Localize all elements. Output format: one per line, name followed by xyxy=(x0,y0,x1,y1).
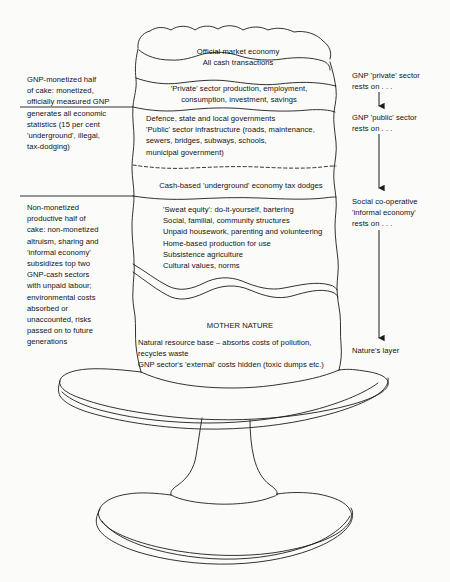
stand-plate-rim-inner xyxy=(62,383,378,423)
cake-bottom-rim xyxy=(141,370,339,388)
stand-stem-right xyxy=(250,420,277,495)
layer-text-private-sector: 'Private' sector production, employment,… xyxy=(146,83,332,105)
annotation-non-monetized-half: Non-monetized productive half of cake: n… xyxy=(27,202,133,348)
stand-stem-foot xyxy=(171,494,277,504)
annotation-informal-rests-on: Social co-operative 'informal economy' r… xyxy=(352,196,448,230)
layer-text-public-sector: Defence, state and local governments 'Pu… xyxy=(146,113,336,158)
stand-base-rim xyxy=(96,508,352,564)
stand-plate-rim xyxy=(59,378,389,429)
annotation-gnp-monetized-half: GNP-monetized half of cake: monetized, o… xyxy=(27,74,135,152)
stand-base-rim-inner xyxy=(102,516,350,559)
divider-private-public xyxy=(133,107,335,112)
divider-dashed-underground xyxy=(133,165,336,168)
layer-text-informal-economy: 'Sweat equity': do-it-yourself, barterin… xyxy=(163,204,341,271)
divider-underground-informal xyxy=(133,196,336,199)
layer-text-underground-economy: Cash-based 'underground' economy tax dod… xyxy=(143,180,339,191)
stand-stem-left xyxy=(171,418,202,495)
diagram-canvas: Official market economy All cash transac… xyxy=(0,0,450,582)
annotation-natures-layer: Nature's layer xyxy=(352,345,448,356)
layer-text-official-market-economy: Official market economy All cash transac… xyxy=(150,46,326,68)
stand-plate-top xyxy=(60,369,389,420)
annotation-private-rests-on: GNP 'private' sector rests on . . . xyxy=(352,70,448,92)
layer-text-mother-nature-body: Natural resource base – absorbs costs of… xyxy=(138,337,344,371)
layer-text-mother-nature-title: MOTHER NATURE xyxy=(150,320,330,331)
stand-base-top xyxy=(98,493,351,556)
annotation-public-rests-on: GNP 'public' sector rests on . . . xyxy=(352,112,448,134)
divider-informal-nature-b xyxy=(133,272,338,299)
